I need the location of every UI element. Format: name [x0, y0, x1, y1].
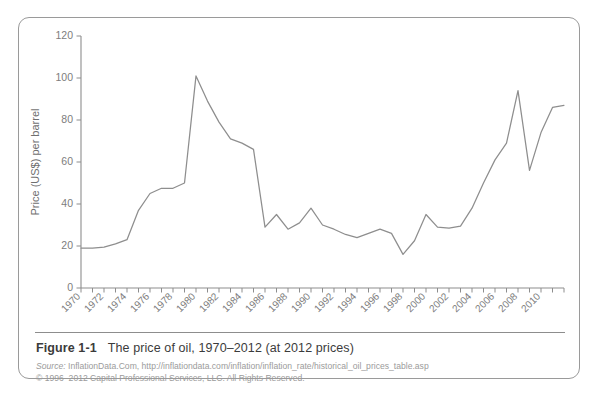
x-tick-label: 2006	[473, 290, 497, 314]
y-axis-title: Price (US$) per barrel	[29, 109, 41, 216]
x-tick-label: 1986	[243, 290, 267, 314]
x-tick-label: 1990	[289, 290, 313, 314]
y-tick-label: 60	[61, 155, 73, 167]
x-tick-label: 1972	[82, 290, 106, 314]
x-tick-label: 2010	[519, 290, 543, 314]
oil-price-line-chart: 0204060801001201970197219741976197819801…	[19, 18, 581, 330]
figure-caption: The price of oil, 1970–2012 (at 2012 pri…	[108, 341, 354, 355]
x-tick-label: 2008	[496, 290, 520, 314]
x-tick-label: 2000	[404, 290, 428, 314]
figure-card: 0204060801001201970197219741976197819801…	[18, 17, 580, 379]
x-tick-label: 1970	[59, 290, 83, 314]
data-series-line	[81, 76, 564, 255]
y-tick-label: 0	[67, 281, 73, 293]
y-tick-label: 80	[61, 113, 73, 125]
chart-plot-region: 0204060801001201970197219741976197819801…	[19, 18, 581, 330]
caption-row: Figure 1-1The price of oil, 1970–2012 (a…	[36, 338, 566, 356]
source-line-1: Source: InflationData.Com, http://inflat…	[36, 360, 568, 372]
x-tick-label: 1994	[335, 290, 359, 314]
source-citation: InflationData.Com, http://inflationdata.…	[66, 361, 429, 371]
y-tick-label: 100	[55, 71, 73, 83]
x-tick-label: 1992	[312, 290, 336, 314]
source-block: Source: InflationData.Com, http://inflat…	[36, 360, 568, 384]
x-tick-label: 1984	[220, 290, 244, 314]
y-tick-label: 120	[55, 29, 73, 41]
x-tick-label: 2002	[427, 290, 451, 314]
x-tick-label: 1978	[151, 290, 175, 314]
x-tick-label: 1980	[174, 290, 198, 314]
x-tick-label: 1998	[381, 290, 405, 314]
x-tick-label: 1988	[266, 290, 290, 314]
x-tick-label: 1974	[105, 290, 129, 314]
caption-divider	[35, 332, 565, 333]
x-tick-label: 2004	[450, 290, 474, 314]
y-tick-label: 20	[61, 239, 73, 251]
x-tick-label: 1996	[358, 290, 382, 314]
y-tick-label: 40	[61, 197, 73, 209]
figure-label: Figure 1-1	[36, 341, 97, 355]
source-line-2: © 1996–2012 Capital Professional Service…	[36, 372, 568, 384]
source-prefix: Source:	[36, 361, 66, 371]
x-tick-label: 1982	[197, 290, 221, 314]
x-tick-label: 1976	[128, 290, 152, 314]
